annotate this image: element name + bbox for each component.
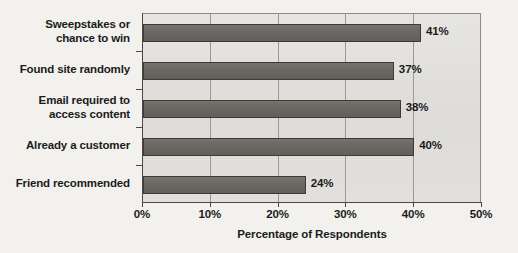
category-label-friend-recommended: Friend recommended — [0, 177, 130, 191]
bar — [143, 138, 414, 156]
x-axis-tick — [278, 203, 279, 207]
category-label-line1: Friend recommended — [16, 177, 130, 189]
category-label-already-a-customer: Already a customer — [0, 139, 130, 153]
bar-value-label: 40% — [419, 139, 442, 151]
x-axis-tick-label: 0% — [134, 208, 150, 220]
bar — [143, 24, 421, 42]
x-axis-tick — [142, 203, 143, 207]
y-axis-line — [142, 13, 143, 203]
x-axis-tick — [413, 203, 414, 207]
x-axis-line — [142, 202, 482, 203]
x-axis-tick — [481, 203, 482, 207]
category-label-line1: Email required to — [39, 94, 130, 106]
y-axis-tick — [136, 51, 142, 52]
category-label-found-site-randomly: Found site randomly — [0, 63, 130, 77]
category-label-sweepstakes: Sweepstakes or chance to win — [0, 18, 130, 45]
category-label-email-required: Email required to access content — [0, 94, 130, 121]
x-axis-tick — [345, 203, 346, 207]
bar-value-label: 38% — [406, 101, 429, 113]
category-label-line2: access content — [49, 108, 130, 120]
plot-area — [142, 13, 481, 203]
y-axis-tick — [136, 165, 142, 166]
bar-value-label: 37% — [399, 63, 422, 75]
category-axis-labels: Sweepstakes or chance to win Found site … — [0, 13, 136, 203]
category-label-line1: Found site randomly — [20, 63, 130, 75]
bar-value-label: 41% — [426, 25, 449, 37]
x-axis-tick-label: 50% — [470, 208, 493, 220]
bar-chart: Sweepstakes or chance to win Found site … — [0, 0, 518, 253]
x-axis-title: Percentage of Respondents — [142, 228, 482, 240]
category-label-line1: Already a customer — [26, 139, 130, 151]
bar — [143, 62, 394, 80]
x-axis-tick — [210, 203, 211, 207]
category-label-line2: chance to win — [56, 32, 130, 44]
x-axis-tick-label: 20% — [266, 208, 289, 220]
x-axis-tick-label: 30% — [334, 208, 357, 220]
bar — [143, 100, 401, 118]
y-axis-tick — [136, 127, 142, 128]
bar-value-label: 24% — [311, 177, 334, 189]
x-axis-tick-label: 10% — [198, 208, 221, 220]
bar — [143, 176, 306, 194]
y-axis-tick — [136, 89, 142, 90]
category-label-line1: Sweepstakes or — [45, 18, 130, 30]
x-axis-tick-label: 40% — [402, 208, 425, 220]
